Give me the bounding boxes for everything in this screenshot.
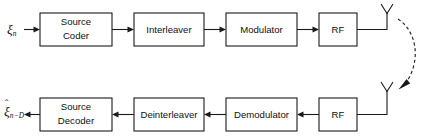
block-modulator[interactable]: Modulator: [226, 13, 297, 46]
arrowhead-modulator: [220, 26, 227, 32]
wire-source-coder-to-interleaver: [112, 26, 134, 32]
output-signal-glyph-wrap: ˆξ: [4, 104, 10, 119]
block-source-coder-label-line1: Source: [61, 16, 91, 27]
arrowhead-source-decoder: [112, 111, 119, 117]
block-rf-receive[interactable]: RF: [319, 98, 357, 131]
output-signal-subscript: n−D: [10, 111, 25, 120]
arrowhead-input: [34, 26, 41, 32]
block-interleaver[interactable]: Interleaver: [134, 13, 204, 46]
block-source-decoder[interactable]: Source Decoder: [40, 98, 112, 131]
arrowhead-deinterleaver: [204, 111, 211, 117]
wire-modulator-to-rf-transmit: [297, 26, 319, 32]
block-rf-transmit-label: RF: [332, 24, 345, 35]
arrowhead-demodulator: [297, 111, 304, 117]
block-interleaver-label: Interleaver: [146, 24, 192, 35]
block-diagram: Source Coder Interleaver Modulator: [0, 0, 427, 139]
block-source-decoder-label-line1: Source: [61, 101, 91, 112]
block-rf-receive-label: RF: [332, 109, 345, 120]
wire-source-decoder-to-output: [24, 111, 40, 117]
arrowhead-output: [24, 111, 31, 117]
block-deinterleaver[interactable]: Deinterleaver: [134, 98, 204, 131]
block-source-coder-label-line2: Coder: [63, 30, 90, 41]
input-signal-subscript: n: [13, 29, 17, 38]
diagram-canvas: Source Coder Interleaver Modulator: [0, 0, 427, 139]
wire-rf-transmit-to-antenna: [357, 12, 387, 30]
wire-interleaver-to-modulator: [204, 26, 226, 32]
wireless-propagation-arc: [398, 19, 415, 90]
arrowhead-rf-transmit: [313, 26, 320, 32]
block-demodulator-label: Demodulator: [234, 109, 290, 120]
block-source-coder[interactable]: Source Coder: [40, 13, 112, 46]
block-demodulator[interactable]: Demodulator: [226, 98, 297, 131]
output-signal-hat: ˆ: [5, 98, 9, 109]
wire-antenna-to-rf-receive: [357, 90, 387, 115]
block-modulator-label: Modulator: [240, 24, 283, 35]
block-source-decoder-label-line2: Decoder: [58, 115, 95, 126]
wire-rf-receive-to-demodulator: [297, 111, 319, 117]
wire-deinterleaver-to-source-decoder: [112, 111, 134, 117]
wire-input-to-source-coder: [24, 26, 40, 32]
block-deinterleaver-label: Deinterleaver: [140, 109, 198, 120]
input-signal-glyph: ξ: [7, 22, 13, 37]
arrowhead-wireless-link: [399, 79, 411, 89]
wire-demodulator-to-deinterleaver: [204, 111, 226, 117]
output-signal-label: ˆξn−D: [4, 103, 24, 120]
input-signal-label: ξn: [7, 21, 17, 38]
arrowhead-interleaver: [128, 26, 135, 32]
block-rf-transmit[interactable]: RF: [319, 13, 357, 46]
